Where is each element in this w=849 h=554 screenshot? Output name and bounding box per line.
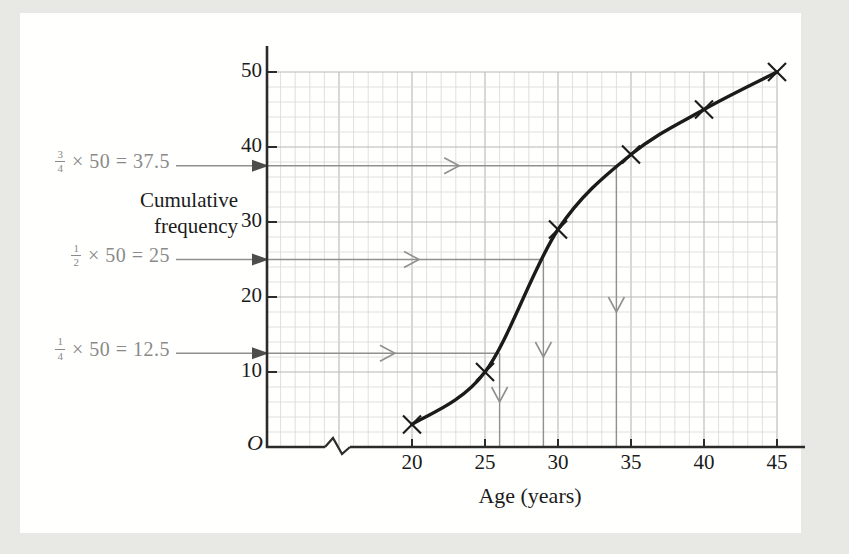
y-tick-label-10: 10 xyxy=(202,358,262,383)
annotation-label-upper-quartile: 34× 50 = 37.5 xyxy=(55,149,170,175)
annotation-label-median: 12× 50 = 25 xyxy=(71,243,170,269)
y-tick-label-40: 40 xyxy=(202,133,262,158)
y-tick-label-30: 30 xyxy=(202,208,262,233)
data-point-markers xyxy=(403,63,786,434)
origin-label: O xyxy=(233,430,263,456)
y-tick-label-50: 50 xyxy=(202,58,262,83)
x-tick-label-45: 45 xyxy=(755,450,799,475)
axes xyxy=(266,46,805,454)
fraction: 14 xyxy=(55,336,65,362)
x-tick-label-20: 20 xyxy=(390,450,434,475)
x-axis-title: Age (years) xyxy=(430,483,630,509)
x-tick-label-25: 25 xyxy=(463,450,507,475)
x-tick-label-40: 40 xyxy=(682,450,726,475)
fraction: 34 xyxy=(55,149,65,175)
x-axis-break-icon xyxy=(325,438,350,454)
fraction: 12 xyxy=(71,243,81,269)
x-tick-label-30: 30 xyxy=(536,450,580,475)
y-tick-label-20: 20 xyxy=(202,283,262,308)
x-tick-label-35: 35 xyxy=(609,450,653,475)
annotation-label-lower-quartile: 14× 50 = 12.5 xyxy=(55,336,170,362)
page-background: Cumulative frequency Age (years) O 34× 5… xyxy=(0,0,849,554)
